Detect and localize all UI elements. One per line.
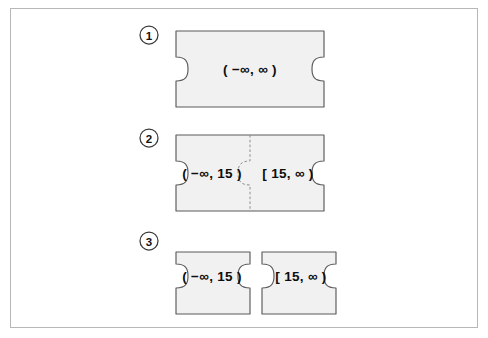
interval-label-row2-piece1: ( −∞, 15 ): [182, 166, 242, 181]
row-1: 1 ( −∞, ∞ ): [140, 26, 324, 107]
row-3-number-badge: 3: [140, 232, 158, 250]
number-label-3: 3: [146, 236, 152, 248]
row-2-number-badge: 2: [140, 129, 158, 147]
row-1-number-badge: 1: [140, 26, 158, 44]
interval-label-row2-piece2: [ 15, ∞ ): [262, 166, 313, 181]
row-3: 3 ( −∞, 15 ) [ 15, ∞ ): [140, 232, 336, 314]
number-label-2: 2: [146, 133, 152, 145]
interval-label-row1-piece1: ( −∞, ∞ ): [223, 62, 277, 77]
figure-canvas: 1 ( −∞, ∞ ) 2 ( −∞, 15 ) [ 15, ∞ ) 3: [0, 0, 488, 338]
interval-label-row3-piece1: ( −∞, 15 ): [182, 269, 242, 284]
number-label-1: 1: [146, 30, 153, 42]
puzzle-diagram: 1 ( −∞, ∞ ) 2 ( −∞, 15 ) [ 15, ∞ ) 3: [0, 0, 488, 338]
interval-label-row3-piece2: [ 15, ∞ ): [275, 269, 326, 284]
row-2: 2 ( −∞, 15 ) [ 15, ∞ ): [140, 129, 324, 211]
